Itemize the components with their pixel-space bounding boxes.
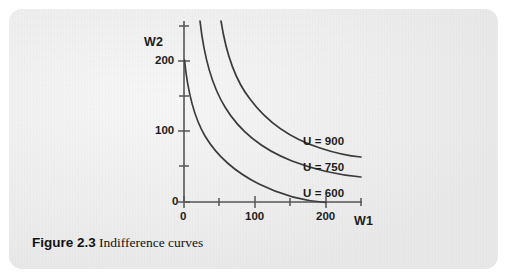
curve-label-u750: U = 750: [303, 161, 344, 173]
chart-plot-area: W2 W1 200 100 0 0 100 200 U = 900 U = 75…: [9, 9, 498, 231]
figure-caption-number: Figure 2.3: [32, 235, 96, 250]
curve-label-u600: U = 600: [303, 187, 344, 199]
y-axis-title: W2: [144, 35, 163, 49]
figure-caption-text: Indifference curves: [99, 235, 203, 250]
figure-card: W2 W1 200 100 0 0 100 200 U = 900 U = 75…: [9, 9, 498, 269]
indifference-curves-svg: [9, 9, 498, 231]
curve-u600: [185, 60, 327, 203]
x-axis-title: W1: [354, 214, 373, 228]
curve-label-u900: U = 900: [303, 135, 344, 147]
figure-caption: Figure 2.3 Indifference curves: [32, 235, 203, 251]
x-tick-label-0: 0: [180, 210, 186, 222]
x-tick-label-200: 200: [316, 210, 335, 222]
y-tick-label-200: 200: [155, 54, 174, 66]
y-tick-label-0: 0: [172, 195, 178, 207]
x-tick-label-100: 100: [245, 210, 264, 222]
y-tick-label-100: 100: [155, 124, 174, 136]
